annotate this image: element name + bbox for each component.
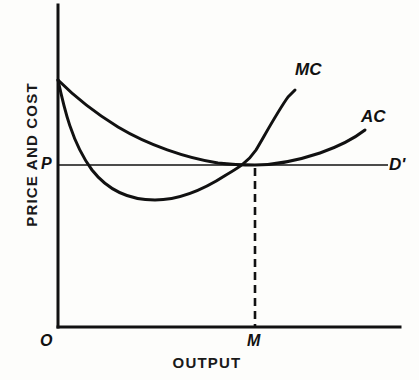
average-cost-curve-label: AC <box>361 108 386 125</box>
demand-curve-label: D' <box>389 156 405 173</box>
marginal-cost-curve-label: MC <box>295 61 321 78</box>
x-axis-title: OUTPUT <box>157 355 257 370</box>
y-axis-title: PRICE AND COST <box>24 75 39 235</box>
price-level-label: P <box>41 156 52 172</box>
average-cost-curve <box>58 80 365 165</box>
origin-label: O <box>40 333 52 349</box>
marginal-cost-curve <box>58 80 295 200</box>
quantity-label: M <box>247 333 260 349</box>
cost-curve-figure: PRICE AND COST OUTPUT MC AC D' P O M <box>0 0 419 380</box>
plot-canvas <box>0 0 419 380</box>
